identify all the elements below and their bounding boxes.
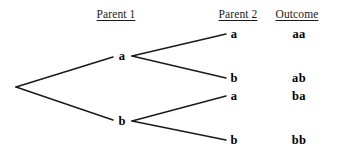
branch-a-to-b (132, 56, 226, 78)
column-header-outcome: Outcome (276, 8, 319, 20)
parent2-node-a-1: a (231, 27, 237, 42)
branch-a-to-a (132, 34, 226, 56)
outcome-ab: ab (292, 71, 306, 86)
outcome-ba: ba (292, 89, 306, 104)
parent1-node-a: a (119, 49, 125, 64)
parent2-node-b-1: b (230, 71, 237, 86)
parent2-node-b-2: b (230, 133, 237, 148)
parent2-node-a-2: a (231, 89, 237, 104)
branch-b-to-b (132, 121, 226, 140)
branch-b-to-a (132, 96, 226, 121)
column-header-parent-1: Parent 1 (97, 8, 136, 20)
outcome-bb: bb (292, 133, 307, 148)
tree-branch-lines (0, 0, 341, 149)
branch-root-to-a (16, 57, 113, 87)
outcome-aa: aa (292, 27, 305, 42)
parent1-node-b: b (118, 114, 125, 129)
genetics-tree-diagram: Parent 1 Parent 2 Outcome a b a b a b aa… (0, 0, 341, 149)
branch-root-to-b (16, 87, 113, 120)
column-header-parent-2: Parent 2 (219, 8, 258, 20)
